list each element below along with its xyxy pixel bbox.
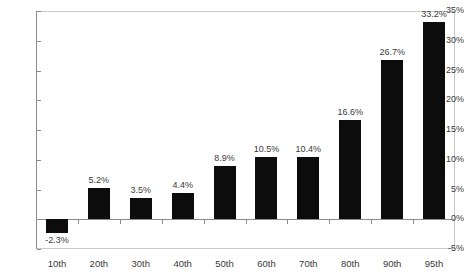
x-axis-tick [413, 220, 414, 224]
x-axis-label: 95th [410, 258, 458, 269]
x-axis-label: 20th [75, 258, 123, 269]
x-axis-tick [204, 220, 205, 224]
x-axis-label: 10th [33, 258, 81, 269]
bar-value-label: 10.5% [244, 144, 288, 154]
x-axis-label: 60th [242, 258, 290, 269]
bar-value-label: 16.6% [328, 107, 372, 117]
bar[interactable] [339, 120, 361, 219]
bar[interactable] [255, 157, 277, 219]
bar-value-label: 33.2% [412, 9, 456, 19]
x-axis-label: 70th [284, 258, 332, 269]
x-axis-tick [78, 220, 79, 224]
x-axis-tick [371, 220, 372, 224]
x-axis-tick [287, 220, 288, 224]
bar-value-label: 5.2% [77, 175, 121, 185]
bar[interactable] [172, 193, 194, 219]
x-axis-tick [246, 220, 247, 224]
x-axis-tick [329, 220, 330, 224]
bar[interactable] [88, 188, 110, 219]
y-axis-tick [37, 100, 41, 101]
bar[interactable] [297, 157, 319, 219]
bar-value-label: 26.7% [370, 47, 414, 57]
y-axis-tick [37, 130, 41, 131]
x-axis-label: 90th [368, 258, 416, 269]
y-axis-label: -5% [432, 244, 464, 253]
bar-value-label: 3.5% [119, 185, 163, 195]
y-axis-tick [37, 190, 41, 191]
bar[interactable] [423, 22, 445, 220]
x-axis-tick [120, 220, 121, 224]
bar[interactable] [381, 60, 403, 219]
bar-value-label: 4.4% [161, 180, 205, 190]
bar[interactable] [46, 219, 68, 233]
bar-value-label: -2.3% [35, 235, 79, 245]
bar-value-label: 8.9% [203, 153, 247, 163]
bar-chart: 35%30%25%20%15%10%5%0%-5% -2.3%5.2%3.5%4… [0, 0, 464, 279]
bar[interactable] [214, 166, 236, 219]
y-axis-tick [37, 249, 41, 250]
x-axis-tick [162, 220, 163, 224]
x-axis-label: 30th [117, 258, 165, 269]
bar[interactable] [130, 198, 152, 219]
bar-value-label: 10.4% [286, 144, 330, 154]
y-axis-tick [37, 71, 41, 72]
x-axis-label: 50th [201, 258, 249, 269]
y-axis-tick [37, 11, 41, 12]
y-axis-tick [37, 41, 41, 42]
x-axis-label: 40th [159, 258, 207, 269]
y-axis-tick [37, 160, 41, 161]
x-axis-label: 80th [326, 258, 374, 269]
